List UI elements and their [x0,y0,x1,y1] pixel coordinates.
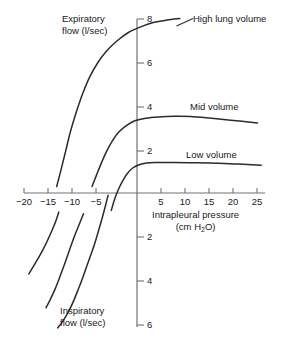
y-tick-label: 6 [147,319,152,330]
x-tick-label: −5 [91,196,102,207]
units-pre: (cm H [176,221,201,232]
x-axis-title-line1: Intrapleural pressure [152,209,239,221]
leader-line-high-volume [177,19,194,27]
x-tick-marks [24,188,257,193]
expiratory-label-line2: flow (l/sec) [62,25,107,37]
annotation-high-lung-volume: High lung volume [193,13,266,24]
x-axis-title: Intrapleural pressure (cm H2O) [152,209,239,234]
y-tick-label: 2 [147,145,152,156]
annotation-low-volume: Low volume [186,149,237,160]
y-tick-label: 8 [147,13,152,24]
curve-high-volume-insp [29,212,59,274]
x-tick-label: 15 [204,196,215,207]
y-tick-label: 6 [147,57,152,68]
units-subscript: 2 [201,226,205,233]
x-tick-label: −15 [40,196,56,207]
chart-canvas [0,0,284,346]
curve-high-volume-exp [57,19,180,187]
y-axis-title-inspiratory: Inspiratory flow (l/sec) [60,305,105,329]
y-tick-marks [137,19,144,325]
units-post: O) [205,221,216,232]
x-tick-label: 25 [252,196,263,207]
y-tick-label: 4 [147,101,152,112]
inspiratory-label-line1: Inspiratory [60,305,105,317]
isovolume-pressure-flow-chart: −20 −15 −10 −5 5 10 15 20 25 8 6 4 2 2 4… [0,0,284,346]
x-tick-label: 5 [158,196,163,207]
curve-mid-volume-insp [46,214,83,308]
x-tick-label: −10 [64,196,80,207]
inspiratory-label-line2: flow (l/sec) [60,317,105,329]
expiratory-label-line1: Expiratory [62,13,107,25]
y-tick-label: 4 [147,275,152,286]
x-axis-title-units: (cm H2O) [152,221,239,234]
annotation-mid-volume: Mid volume [190,101,239,112]
x-tick-label: 10 [180,196,191,207]
x-tick-label: 20 [228,196,239,207]
x-tick-label: −20 [16,196,32,207]
y-axis-title-expiratory: Expiratory flow (l/sec) [62,13,107,37]
